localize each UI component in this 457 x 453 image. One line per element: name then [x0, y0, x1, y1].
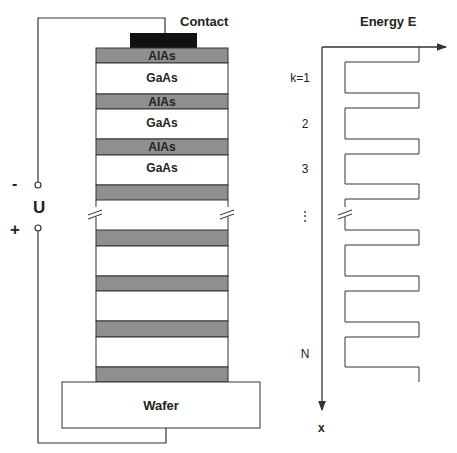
diagram-svg: - U + Contact AlAs GaAs AlAs GaAs AlAs G…: [0, 0, 457, 453]
layer-label: GaAs: [146, 116, 178, 130]
stack-break: [88, 200, 234, 230]
layer-label: AlAs: [148, 95, 176, 109]
potential-profile: [338, 47, 419, 382]
layer-stack-bottom: [96, 230, 228, 382]
layer-label: AlAs: [148, 49, 176, 63]
wafer-label: Wafer: [143, 398, 179, 413]
layer-label: AlAs: [148, 140, 176, 154]
energy-title: Energy E: [360, 14, 417, 29]
voltage-label: U: [33, 198, 45, 217]
well-label: ⋮: [299, 209, 311, 223]
well-label: 3: [302, 162, 309, 176]
plus-terminal-icon: [35, 225, 41, 231]
layer-label: GaAs: [146, 161, 178, 175]
well-label: 2: [302, 117, 309, 131]
layer-label: GaAs: [146, 71, 178, 85]
layer-alas-4: [96, 185, 228, 200]
minus-label: -: [12, 175, 17, 192]
well-label: N: [301, 347, 310, 361]
superlattice-diagram: - U + Contact AlAs GaAs AlAs GaAs AlAs G…: [0, 0, 457, 453]
plus-label: +: [10, 220, 20, 239]
energy-axes: [322, 47, 446, 410]
contact-pad: [130, 33, 197, 48]
minus-terminal-icon: [35, 182, 41, 188]
contact-label: Contact: [180, 14, 229, 29]
x-axis-label: x: [318, 421, 325, 435]
well-label: k=1: [290, 71, 310, 85]
